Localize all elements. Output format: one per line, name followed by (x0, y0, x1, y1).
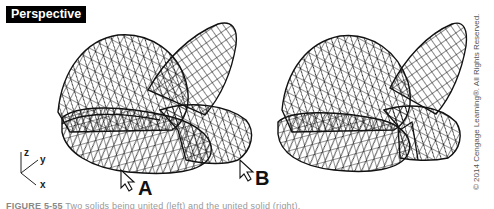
caption-text: Two solids being united (left) and the u… (65, 201, 300, 209)
figure-caption: FIGURE 5-55 Two solids being united (lef… (6, 201, 300, 209)
cursor-arrow-icon-b (240, 160, 253, 181)
marker-b: B (255, 168, 269, 188)
axis-label-x: x (40, 180, 46, 190)
wireframe-illustration (0, 0, 494, 209)
axis-label-y: y (40, 155, 46, 165)
copyright-notice: © 2014 Cengage Learning®. All Rights Res… (472, 14, 481, 190)
cursor-arrow-icon-a (121, 170, 134, 191)
marker-a: A (138, 178, 152, 198)
right-solid (278, 23, 466, 171)
axis-label-z: z (24, 148, 29, 158)
left-solids (58, 23, 252, 173)
figure-number: FIGURE 5-55 (6, 201, 63, 209)
